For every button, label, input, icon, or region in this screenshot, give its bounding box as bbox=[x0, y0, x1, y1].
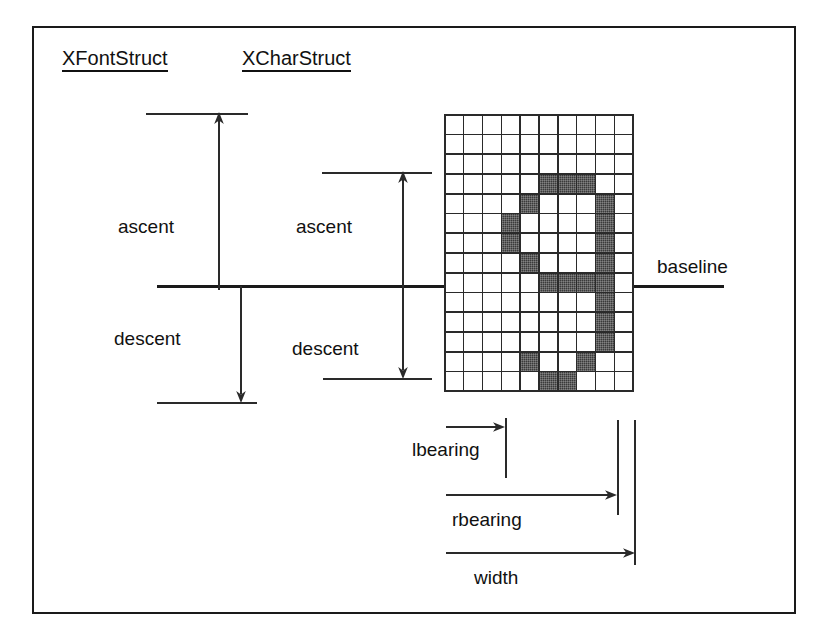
glyph-pixel bbox=[521, 116, 538, 134]
glyph-pixel bbox=[615, 353, 632, 371]
glyph-pixel bbox=[596, 313, 613, 331]
glyph-bitmap-grid bbox=[444, 114, 634, 392]
glyph-pixel bbox=[615, 254, 632, 272]
glyph-pixel bbox=[446, 313, 463, 331]
glyph-pixel bbox=[577, 293, 594, 311]
glyph-pixel bbox=[615, 195, 632, 213]
glyph-pixel bbox=[446, 333, 463, 351]
glyph-pixel bbox=[540, 135, 557, 153]
glyph-pixel bbox=[483, 293, 500, 311]
glyph-pixel bbox=[577, 116, 594, 134]
glyph-pixel bbox=[483, 333, 500, 351]
glyph-pixel bbox=[464, 116, 481, 134]
glyph-pixel bbox=[483, 214, 500, 232]
glyph-pixel bbox=[521, 274, 538, 292]
glyph-pixel bbox=[446, 155, 463, 173]
glyph-pixel bbox=[540, 372, 557, 390]
glyph-pixel bbox=[464, 195, 481, 213]
glyph-pixel bbox=[577, 333, 594, 351]
label-char-descent: descent bbox=[292, 339, 359, 358]
font-ascent-top-rule bbox=[146, 113, 248, 115]
char-descent-bottom-rule bbox=[323, 378, 432, 380]
glyph-pixel bbox=[521, 313, 538, 331]
glyph-pixel bbox=[521, 175, 538, 193]
glyph-pixel bbox=[596, 155, 613, 173]
glyph-pixel bbox=[577, 155, 594, 173]
glyph-pixel bbox=[596, 274, 613, 292]
glyph-pixel bbox=[559, 135, 576, 153]
glyph-pixel bbox=[502, 333, 519, 351]
glyph-pixel bbox=[502, 313, 519, 331]
glyph-pixel bbox=[615, 214, 632, 232]
glyph-pixel bbox=[521, 293, 538, 311]
glyph-pixel bbox=[446, 372, 463, 390]
glyph-pixel bbox=[446, 234, 463, 252]
glyph-pixel bbox=[464, 353, 481, 371]
glyph-pixel bbox=[577, 175, 594, 193]
glyph-pixel bbox=[540, 274, 557, 292]
glyph-pixel bbox=[559, 372, 576, 390]
glyph-pixel bbox=[521, 372, 538, 390]
label-lbearing: lbearing bbox=[412, 440, 480, 459]
glyph-pixel bbox=[540, 214, 557, 232]
char-ascent-top-rule bbox=[322, 172, 432, 174]
diagram-frame: XFontStruct XCharStruct ascent descent bbox=[32, 26, 796, 614]
glyph-pixel bbox=[615, 313, 632, 331]
glyph-pixel bbox=[446, 274, 463, 292]
glyph-pixel bbox=[483, 353, 500, 371]
label-char-ascent: ascent bbox=[296, 217, 352, 236]
label-rbearing: rbearing bbox=[452, 510, 522, 529]
glyph-pixel bbox=[559, 313, 576, 331]
label-baseline: baseline bbox=[657, 257, 728, 276]
glyph-pixel bbox=[596, 175, 613, 193]
glyph-pixel bbox=[502, 195, 519, 213]
glyph-pixel bbox=[483, 175, 500, 193]
lbearing-arrow bbox=[444, 420, 508, 434]
glyph-pixel bbox=[540, 116, 557, 134]
glyph-pixel bbox=[446, 116, 463, 134]
glyph-pixel bbox=[559, 274, 576, 292]
glyph-pixel bbox=[596, 195, 613, 213]
glyph-pixel bbox=[446, 175, 463, 193]
glyph-pixel bbox=[577, 214, 594, 232]
glyph-pixel bbox=[483, 195, 500, 213]
glyph-pixel bbox=[615, 135, 632, 153]
glyph-pixel bbox=[615, 333, 632, 351]
label-width: width bbox=[474, 568, 518, 587]
glyph-pixel bbox=[464, 234, 481, 252]
glyph-pixel bbox=[464, 293, 481, 311]
width-arrow bbox=[444, 546, 638, 560]
glyph-pixel bbox=[596, 293, 613, 311]
glyph-pixel bbox=[521, 214, 538, 232]
glyph-pixel bbox=[615, 175, 632, 193]
glyph-pixel bbox=[502, 274, 519, 292]
glyph-pixel bbox=[521, 135, 538, 153]
font-ascent-arrow bbox=[212, 108, 226, 292]
glyph-pixel bbox=[559, 293, 576, 311]
glyph-pixel bbox=[577, 353, 594, 371]
glyph-pixel bbox=[559, 214, 576, 232]
glyph-pixel bbox=[596, 353, 613, 371]
glyph-pixel bbox=[464, 155, 481, 173]
glyph-pixel bbox=[615, 116, 632, 134]
glyph-pixel bbox=[483, 135, 500, 153]
glyph-pixel bbox=[540, 313, 557, 331]
glyph-pixel bbox=[540, 155, 557, 173]
label-font-descent: descent bbox=[114, 329, 181, 348]
glyph-pixel bbox=[446, 353, 463, 371]
glyph-pixel bbox=[540, 293, 557, 311]
glyph-pixel bbox=[615, 293, 632, 311]
glyph-pixel bbox=[615, 372, 632, 390]
glyph-pixel bbox=[502, 175, 519, 193]
heading-xfontstruct: XFontStruct bbox=[62, 48, 168, 72]
glyph-pixel bbox=[464, 313, 481, 331]
glyph-pixel bbox=[559, 195, 576, 213]
glyph-pixel bbox=[559, 116, 576, 134]
glyph-pixel bbox=[502, 135, 519, 153]
glyph-pixel bbox=[502, 116, 519, 134]
glyph-pixel bbox=[559, 333, 576, 351]
glyph-pixel bbox=[483, 372, 500, 390]
glyph-pixel bbox=[464, 333, 481, 351]
glyph-pixel bbox=[464, 175, 481, 193]
glyph-pixel bbox=[559, 175, 576, 193]
